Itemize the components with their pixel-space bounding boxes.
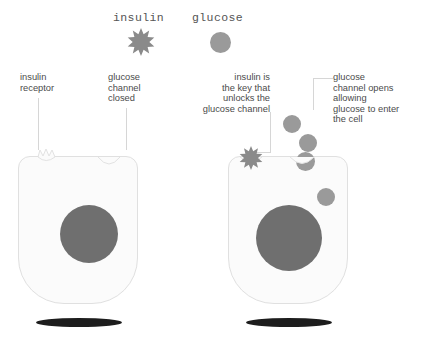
- annotation-insulin-receptor: insulin receptor: [20, 72, 100, 93]
- leader-line-insulin-receptor: [38, 98, 39, 150]
- cell-shadow-right: [246, 318, 332, 327]
- leader-line-insulin-key-vertical: [270, 112, 271, 152]
- glucose-molecule-outside-2: [299, 134, 317, 152]
- annotation-insulin-is-the-key: insulin is the key that unlocks the gluc…: [178, 72, 270, 114]
- nucleus-left: [60, 205, 118, 263]
- leader-line-channel-opens-vertical: [313, 78, 314, 110]
- glucose-molecule-at-channel: [296, 152, 315, 171]
- insulin-glucose-diagram: insulin glucose insulin receptor glucose…: [0, 0, 425, 346]
- legend-label-glucose: glucose: [192, 11, 243, 24]
- legend-label-insulin: insulin: [113, 11, 164, 24]
- legend-insulin-star-burst-icon: [128, 28, 155, 56]
- glucose-molecule-outside-1: [283, 115, 301, 133]
- nucleus-right: [256, 205, 322, 271]
- cell-shadow-left: [36, 318, 122, 327]
- annotation-glucose-channel-closed: glucose channel closed: [108, 72, 188, 104]
- leader-line-channel-opens-horizontal: [313, 78, 333, 79]
- leader-line-insulin-key-horizontal: [252, 152, 271, 153]
- glucose-molecule-inside-cell: [317, 188, 335, 206]
- leader-line-glucose-channel-closed: [126, 108, 127, 150]
- legend-glucose-circle-icon: [210, 32, 231, 53]
- annotation-glucose-channel-opens: glucose channel opens allowing glucose t…: [333, 72, 425, 125]
